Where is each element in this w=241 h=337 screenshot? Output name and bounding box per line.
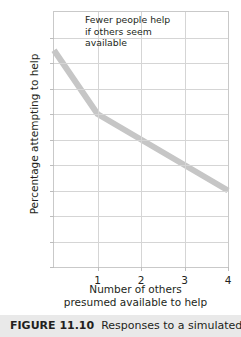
y-tick-mark	[50, 242, 54, 243]
figure-caption-label: FIGURE 11.10	[10, 319, 94, 332]
annotation-line-1: Fewer people help	[85, 14, 173, 26]
y-tick-mark	[50, 140, 54, 141]
annotation-line-3: available	[85, 37, 173, 49]
y-axis-title: Percentage attempting to help	[28, 34, 40, 234]
y-tick-mark	[50, 38, 54, 39]
figure-caption-bar: FIGURE 11.10 Responses to a simulated	[0, 314, 241, 337]
plot-frame: 90%807060504030201001234	[53, 11, 229, 268]
chart-plot-area: Percentage attempting to help 90%8070605…	[0, 0, 241, 314]
x-gridline	[141, 12, 142, 267]
x-gridline	[98, 12, 99, 267]
y-tick-mark	[50, 89, 54, 90]
x-tick-mark	[141, 267, 142, 271]
x-axis-title: Number of others presumed available to h…	[30, 283, 241, 309]
y-tick-mark	[50, 191, 54, 192]
x-tick-mark	[98, 267, 99, 271]
y-tick-mark	[50, 216, 54, 217]
x-gridline	[185, 12, 186, 267]
x-tick-mark	[185, 267, 186, 271]
y-tick-mark	[50, 114, 54, 115]
annotation-line-2: if others seem	[85, 26, 173, 38]
figure-container: Percentage attempting to help 90%8070605…	[0, 0, 241, 337]
x-tick-mark	[228, 267, 229, 271]
x-axis-title-line-2: presumed available to help	[30, 296, 241, 309]
figure-caption-body: Responses to a simulated	[101, 319, 241, 332]
chart-annotation: Fewer people help if others seem availab…	[85, 14, 173, 49]
figure-caption: FIGURE 11.10 Responses to a simulated	[10, 319, 241, 332]
y-tick-mark	[50, 63, 54, 64]
plot-inner: 90%807060504030201001234	[54, 12, 228, 267]
y-tick-mark	[50, 165, 54, 166]
y-tick-mark	[50, 267, 54, 268]
x-axis-title-line-1: Number of others	[30, 283, 241, 296]
